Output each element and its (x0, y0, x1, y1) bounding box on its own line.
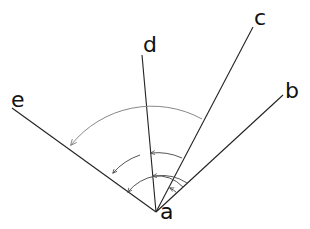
label-c: c (254, 5, 266, 30)
arc-b-d (153, 176, 183, 187)
ray-e (12, 108, 156, 212)
arc-b-c (170, 188, 177, 193)
arc-c-e (71, 106, 202, 145)
arc-c-d (151, 153, 182, 158)
ray-d (142, 55, 156, 212)
label-d: d (143, 32, 157, 57)
arc-d-e (113, 155, 140, 173)
arc-b-e (128, 175, 187, 192)
label-a: a (160, 199, 173, 224)
label-b: b (285, 78, 299, 103)
label-e: e (11, 87, 25, 112)
ray-c (156, 27, 253, 212)
ray-b (156, 95, 283, 212)
angle-diagram: a b c d e (0, 0, 310, 229)
